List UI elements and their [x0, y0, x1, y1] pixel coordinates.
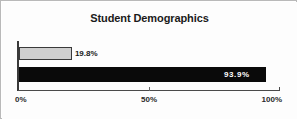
bar-series-0[interactable]: [19, 47, 72, 60]
plot-area: 19.8% 93.9% 0% 50% 100%: [1, 1, 297, 119]
x-axis-end-cap: [279, 87, 280, 91]
chart-frame: Student Demographics 19.8% 93.9% 0% 50% …: [0, 0, 297, 119]
x-axis-tick-label-0: 0%: [15, 95, 27, 105]
x-tick-mark-50: [149, 87, 150, 91]
x-axis-tick-label-50: 50%: [141, 95, 157, 105]
bar-value-label-1: 93.9%: [224, 70, 250, 80]
x-axis-tick-label-100: 100%: [262, 95, 282, 105]
bar-value-label-0: 19.8%: [75, 49, 98, 59]
